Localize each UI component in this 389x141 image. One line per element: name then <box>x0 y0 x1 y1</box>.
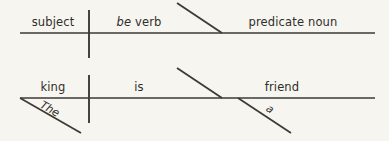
diagram-row-pattern: subject be verb predicate noun <box>20 3 375 58</box>
subject-label-row2: king <box>40 80 65 94</box>
predicate-noun-slant-row1 <box>177 3 222 33</box>
article-a-label: a <box>264 102 277 117</box>
sentence-diagram-container: subject be verb predicate noun king is f… <box>0 0 389 141</box>
article-the-label: The <box>38 98 62 120</box>
diagram-row-example: king is friend The a <box>20 68 375 133</box>
verb-label-row2: is <box>134 80 144 94</box>
predicate-noun-label-row2: friend <box>265 80 300 94</box>
predicate-noun-slant-row2 <box>177 68 222 98</box>
verb-label-row1-plain: verb <box>131 15 161 29</box>
diagram-canvas: subject be verb predicate noun king is f… <box>0 0 389 141</box>
verb-label-row1-italic: be <box>116 15 131 29</box>
article-a-modifier-line <box>238 98 291 133</box>
subject-label-row1: subject <box>32 15 75 29</box>
predicate-noun-label-row1: predicate noun <box>249 15 338 29</box>
verb-label-row1: be verb <box>116 15 161 29</box>
